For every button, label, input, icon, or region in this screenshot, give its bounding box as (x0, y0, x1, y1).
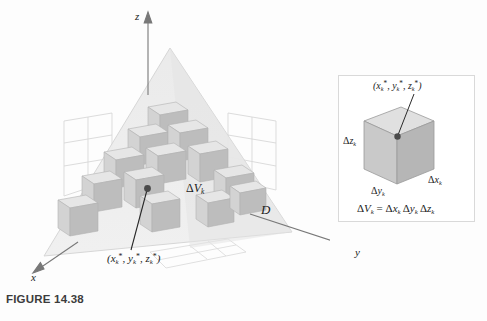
inset-dx-sub: k (439, 179, 442, 186)
inset-delta-z-label: Δzk (343, 136, 356, 147)
inset-detail-panel: (xk*, yk*, zk*) Δzk Δyk Δxk ΔVk = Δxk Δy… (338, 75, 475, 222)
z-axis-arrowhead (144, 12, 152, 23)
figure-container: z y x D ΔVk (xk*, yk*, zk*) (xk*, yk*, z… (0, 0, 487, 321)
cube (140, 191, 180, 232)
inset-sample-point-label: (xk*, yk*, zk*) (373, 81, 422, 92)
eq-t3-delta: Δ (420, 202, 427, 214)
inset-delta-y-label: Δyk (371, 186, 385, 197)
inset-sample-point-dot (394, 133, 400, 139)
inset-svg (339, 76, 474, 221)
inset-dz-sub: k (353, 140, 356, 147)
eq-t2-delta: Δ (403, 202, 410, 214)
inset-paren-close: ) (418, 80, 421, 91)
eq-lhs-var: V (364, 202, 371, 214)
cube (58, 195, 98, 236)
x-axis-label: x (31, 272, 36, 283)
paren-close: ) (157, 252, 161, 264)
z-axis-label: z (135, 11, 139, 22)
sample-point-label: (xk*, yk*, zk*) (107, 253, 160, 266)
inset-delta-x-label: Δxk (428, 175, 442, 186)
delta-volume-label: ΔVk (186, 182, 204, 196)
figure-caption: FIGURE 14.38 (6, 293, 84, 305)
inset-volume-equation: ΔVk = Δxk Δyk Δzk (357, 203, 434, 216)
y-axis-label: y (355, 247, 360, 258)
main-3d-scene: z y x D ΔVk (xk*, yk*, zk*) (0, 0, 330, 300)
volume-subscript: k (201, 187, 204, 196)
inset-dy-sub: k (382, 190, 385, 197)
delta-symbol: Δ (186, 181, 194, 195)
inset-cube (364, 107, 434, 184)
volume-variable: V (194, 181, 201, 195)
scene-svg (0, 0, 330, 300)
eq-t1-delta: Δ (386, 202, 393, 214)
eq-t3-sub: k (431, 208, 434, 215)
region-d-label: D (261, 203, 270, 216)
sample-point-dot (144, 185, 151, 192)
eq-equals: = (374, 202, 386, 214)
